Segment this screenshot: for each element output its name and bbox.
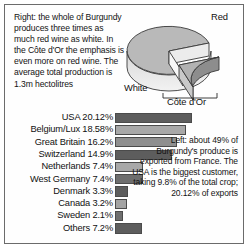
pie-chart: Red White Côte d'Or (123, 7, 244, 111)
bar-row-label: Great Britain 16.2% (5, 137, 113, 149)
exports-bar-chart: USA 20.12%Belgium/Lux 18.58%Great Britai… (5, 111, 244, 244)
bar-row-label: USA 20.12% (5, 112, 113, 124)
pie-label-red: Red (211, 11, 228, 22)
bar-row: Others 7.2% (5, 223, 244, 235)
intro-caption: Right: the whole of Burgundy produces th… (14, 12, 126, 90)
infographic-panel: Right: the whole of Burgundy produces th… (4, 4, 244, 244)
bar-row-bar (115, 223, 142, 233)
bar-row: USA 20.12% (5, 112, 244, 124)
bar-row-label: Denmark 3.3% (5, 186, 113, 198)
side-caption: Left: about 49% of Burgundy's produce is… (130, 135, 238, 199)
bar-row-bar (115, 211, 123, 221)
bar-row-bar (115, 125, 186, 135)
bar-row: Canada 3.2% (5, 198, 244, 210)
bar-row-label: Belgium/Lux 18.58% (5, 124, 113, 136)
bar-row-label: Switzerland 14.9% (5, 149, 113, 161)
pie-label-white: White (124, 82, 147, 93)
pie-label-cote-dor: Côte d'Or (167, 96, 206, 107)
pie-section: Right: the whole of Burgundy produces th… (5, 5, 244, 111)
bar-row-bar (115, 113, 192, 123)
bar-row-label: Others 7.2% (5, 223, 113, 235)
bar-row-label: Sweden 2.1% (5, 210, 113, 222)
bar-row-label: West Germany 7.4% (5, 174, 113, 186)
bar-row: Sweden 2.1% (5, 210, 244, 222)
bar-row-label: Canada 3.2% (5, 198, 113, 210)
bar-row-label: Netherlands 7.4% (5, 161, 113, 173)
bar-row-bar (115, 199, 127, 209)
bar-row-bar (115, 186, 128, 196)
